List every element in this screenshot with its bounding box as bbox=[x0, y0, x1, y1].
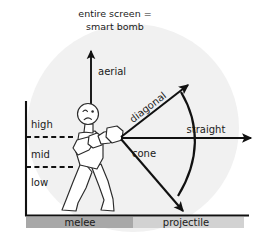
title-line-2: smart bomb bbox=[86, 21, 144, 32]
projectile-label: projectile bbox=[163, 217, 209, 228]
height-label-mid: mid bbox=[31, 149, 50, 160]
title-line-1: entire screen = bbox=[78, 8, 151, 19]
diagram-canvas: entire screen = smart bomb aerial high m… bbox=[0, 0, 257, 251]
height-label-low: low bbox=[31, 177, 48, 188]
attack-range-diagram: entire screen = smart bomb aerial high m… bbox=[0, 0, 257, 251]
straight-label: straight bbox=[187, 124, 226, 135]
height-label-high: high bbox=[31, 119, 53, 130]
aerial-label: aerial bbox=[98, 66, 126, 77]
melee-label: melee bbox=[65, 217, 96, 228]
